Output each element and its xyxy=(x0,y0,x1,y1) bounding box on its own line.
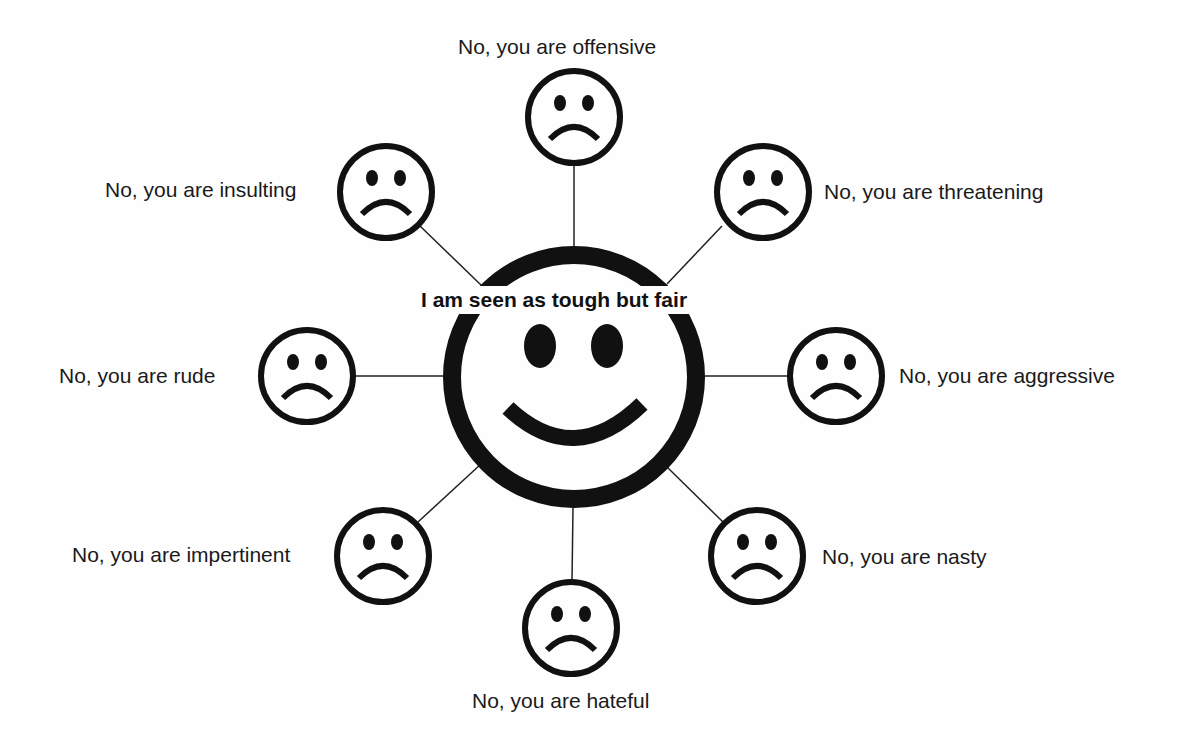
sad-face-icon-nasty xyxy=(711,510,803,602)
sad-face-icon-aggressive xyxy=(790,330,882,422)
spoke-label-hateful: No, you are hateful xyxy=(472,689,649,713)
spoke-label-rude: No, you are rude xyxy=(59,364,215,388)
center-label: I am seen as tough but fair xyxy=(417,286,691,314)
spoke-label-offensive: No, you are offensive xyxy=(458,35,656,59)
spoke-label-impertinent: No, you are impertinent xyxy=(72,543,290,567)
spoke-label-aggressive: No, you are aggressive xyxy=(899,364,1115,388)
sad-face-icon-offensive xyxy=(528,71,620,163)
sad-face-icon-impertinent xyxy=(337,510,429,602)
spoke-label-threatening: No, you are threatening xyxy=(824,180,1043,204)
spoke-label-nasty: No, you are nasty xyxy=(822,545,987,569)
sad-face-icon-threatening xyxy=(717,146,809,238)
spoke-label-insulting: No, you are insulting xyxy=(105,178,296,202)
sad-face-icon-rude xyxy=(261,330,353,422)
sad-face-icon-insulting xyxy=(340,146,432,238)
sad-face-icon-hateful xyxy=(525,582,617,674)
